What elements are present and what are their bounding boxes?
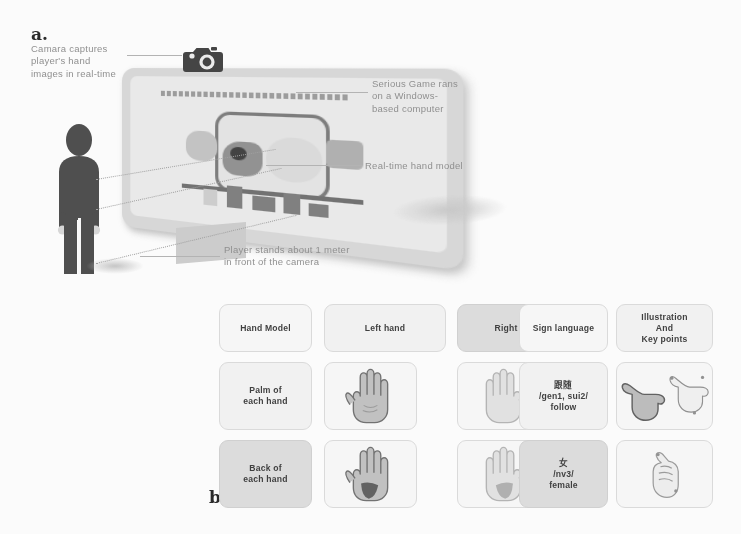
row-label-back-of-each-hand: Back of each hand — [219, 440, 312, 508]
scene-character-head — [185, 130, 217, 162]
table-header-illustration-key-points: Illustration And Key points — [616, 304, 713, 352]
row-label-palm-of-each-hand: Palm of each hand — [219, 362, 312, 430]
sign-language-cell-female: 女 /nv3/ female — [519, 440, 608, 508]
sign-language-cell-follow: 跟随 /gen1, sui2/ follow — [519, 362, 608, 430]
leader-line-player — [140, 256, 220, 257]
annotation-game-platform: Serious Game rans on a Windows- based co… — [372, 78, 502, 115]
leader-line-hand-model — [266, 165, 362, 166]
panel-letter-a: a. — [31, 24, 48, 44]
panel-a-system-overview: a. — [0, 0, 741, 292]
person-ground-shadow — [86, 258, 144, 274]
camera-icon — [182, 41, 224, 75]
annotation-camera: Camara captures player's hand images in … — [31, 43, 149, 80]
scene-ui-bar — [252, 196, 274, 213]
table-header-sign-language: Sign language — [519, 304, 608, 352]
annotation-player-distance: Player stands about 1 meter in front of … — [224, 244, 399, 269]
scene-ui-bar — [309, 203, 329, 218]
scene-ui-bar — [283, 192, 300, 215]
follow-sign-hand-icon — [616, 362, 713, 430]
person-silhouette-icon — [48, 122, 110, 274]
table-header-left-hand: Left hand — [324, 304, 446, 352]
leader-line-game — [296, 92, 368, 93]
left-back-hand-icon — [324, 440, 417, 508]
panels-b-and-c-hand-table: b. c. Hand Model Left hand Right hand Si… — [0, 292, 741, 534]
table-header-hand-model: Hand Model — [219, 304, 312, 352]
scene-ui-bar — [204, 189, 217, 206]
scene-ui-bar — [227, 185, 243, 209]
annotation-hand-model: Real-time hand model — [365, 160, 540, 172]
female-sign-hand-icon — [616, 440, 713, 508]
left-palm-hand-icon — [324, 362, 417, 430]
tv-ground-shadow — [386, 195, 513, 225]
